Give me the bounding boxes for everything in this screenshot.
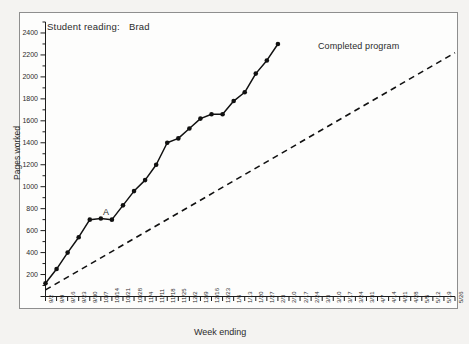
completed-program-annotation: Completed program [318,41,399,51]
x-tick-label: 9/9 [59,294,65,302]
x-tick-label: 10/7 [103,291,109,303]
x-tick-label: 10/21 [125,287,131,302]
x-tick-label: 10/28 [137,287,143,302]
x-tick-label: 5/12 [435,291,441,303]
y-tick-label: 800 [14,205,38,212]
x-tick-label: 12/2 [192,291,198,303]
y-tick-label: 2200 [14,51,38,58]
x-tick-label: 12/23 [225,287,231,302]
y-tick-label: 1200 [14,161,38,168]
x-tick-label: 2/3 [280,294,286,302]
x-tick-label: 4/7 [380,294,386,302]
axes-group [41,22,456,301]
x-tick-label: 1/27 [269,291,275,303]
phase-marker-a: A [103,207,109,217]
x-tick-label: 3/10 [336,291,342,303]
x-tick-label: 5/5 [424,294,430,302]
y-tick-label: 200 [14,271,38,278]
x-tick-label: 11/25 [181,288,187,303]
x-tick-label: 3/17 [347,291,353,303]
data-series-line [43,42,280,286]
x-tick-label: 1/13 [247,291,253,303]
x-tick-label: 4/21 [402,291,408,303]
x-tick-label: 12/16 [214,287,220,302]
chart-container: Student reading:Brad Completed program A… [0,0,469,344]
x-tick-label: 9/16 [70,291,76,303]
y-tick-label: 2400 [14,29,38,36]
x-tick-label: 2/24 [314,291,320,303]
aim-line [46,53,456,290]
student-name: Brad [129,21,150,32]
x-tick-label: 5/26 [458,291,464,303]
y-tick-label: 400 [14,249,38,256]
x-tick-label: 11/18 [170,288,176,303]
x-tick-label: 9/2 [48,294,54,302]
x-tick-label: 12/9 [203,291,209,303]
x-tick-label: 5/19 [446,291,452,303]
x-tick-label: 11/4 [148,291,154,302]
x-axis-title: Week ending [194,327,246,337]
y-tick-label: 1000 [14,183,38,190]
x-tick-label: 9/30 [92,291,98,303]
x-tick-label: 11/11 [159,288,165,302]
x-tick-label: 2/10 [291,291,297,303]
x-tick-label: 10/14 [114,287,120,302]
y-tick-label: 600 [14,227,38,234]
x-tick-label: 1/6 [236,294,242,302]
x-tick-label: 3/3 [325,294,331,302]
y-tick-label: 2000 [14,73,38,80]
student-reading-annotation: Student reading:Brad [47,21,150,32]
x-tick-label: 9/23 [81,291,87,303]
y-tick-label: 1400 [14,139,38,146]
y-tick-label: 1600 [14,117,38,124]
y-tick-label: 1800 [14,95,38,102]
x-tick-label: 4/14 [391,291,397,303]
x-tick-label: 4/28 [413,291,419,303]
x-tick-label: 1/20 [258,291,264,303]
x-tick-label: 2/17 [303,291,309,303]
x-tick-label: 3/24 [358,291,364,303]
student-reading-label: Student reading: [47,21,120,32]
x-tick-label: 3/31 [369,291,375,303]
